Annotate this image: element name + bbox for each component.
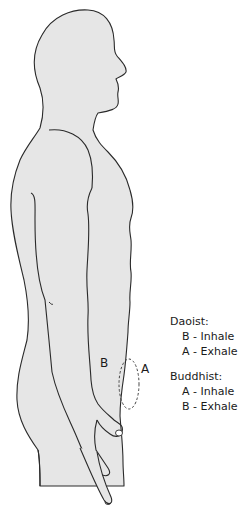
body-silhouette: [11, 10, 133, 486]
legend-entry: A - Exhale: [170, 344, 238, 359]
legend-title-daoist: Daoist:: [170, 314, 238, 329]
legend-entry: A - Inhale: [170, 384, 238, 399]
legend-title-buddhist: Buddhist:: [170, 369, 238, 384]
marker-label-b: B: [100, 356, 108, 370]
legend-entry: B - Exhale: [170, 399, 238, 414]
thumb-nail: [116, 430, 123, 436]
human-figure-diagram: [0, 0, 246, 516]
breathing-legend: Daoist: B - Inhale A - Exhale Buddhist: …: [170, 314, 238, 414]
legend-entry: B - Inhale: [170, 329, 238, 344]
marker-label-a: A: [141, 362, 149, 376]
